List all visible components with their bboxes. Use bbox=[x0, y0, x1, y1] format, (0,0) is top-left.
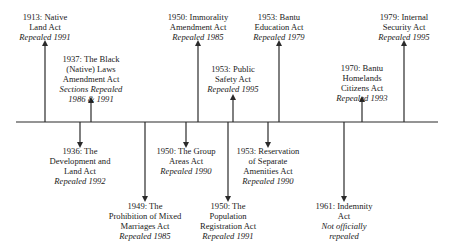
event-repeal-status: Repealed 1991 bbox=[19, 32, 70, 42]
event-repeal-status: Repealed 1991 bbox=[200, 231, 256, 241]
event-repeal-status: Repealed 1979 bbox=[253, 32, 304, 42]
event-label-prohibition-of-mixed-marriages-act: 1949: TheProhibition of MixedMarriages A… bbox=[109, 201, 182, 241]
event-title-line: Education Act bbox=[253, 22, 304, 32]
event-repeal-status: repealed bbox=[315, 231, 372, 241]
event-repeal-status: Repealed 1990 bbox=[156, 166, 215, 176]
event-title-line: Registration Act bbox=[200, 221, 256, 231]
event-title-line: 1937: The Black bbox=[60, 54, 123, 64]
event-repeal-status: 1986 & 1991 bbox=[60, 94, 123, 104]
event-label-black-native-laws-amendment-act: 1937: The Black(Native) LawsAmendment Ac… bbox=[60, 54, 123, 104]
event-label-bantu-homelands-citizens-act: 1970: BantuHomelandsCitizens ActRepealed… bbox=[336, 63, 387, 103]
event-title-line: 1953: Public bbox=[207, 64, 258, 74]
event-title-line: Amendment Act bbox=[168, 22, 228, 32]
event-title-line: of Separate bbox=[237, 156, 300, 166]
event-repeal-status: Repealed 1992 bbox=[50, 176, 111, 186]
event-title-line: (Native) Laws bbox=[60, 64, 123, 74]
event-label-population-registration-act: 1950: ThePopulationRegistration ActRepea… bbox=[200, 201, 256, 241]
event-label-public-safety-act: 1953: PublicSafety ActRepealed 1995 bbox=[207, 64, 258, 94]
event-label-native-land-act: 1913: NativeLand ActRepealed 1991 bbox=[19, 12, 70, 42]
event-title-line: Areas Act bbox=[156, 156, 215, 166]
event-repeal-status: Not officially bbox=[315, 221, 372, 231]
event-label-development-and-land-act: 1936: TheDevelopment andLand ActRepealed… bbox=[50, 146, 111, 186]
event-repeal-status: Sections Repealed bbox=[60, 84, 123, 94]
event-label-indemnity-act: 1961: IndemnityActNot officiallyrepealed bbox=[315, 201, 372, 241]
event-label-immorality-amendment-act: 1950: ImmoralityAmendment ActRepealed 19… bbox=[168, 12, 228, 42]
event-repeal-status: Repealed 1990 bbox=[237, 176, 300, 186]
event-label-internal-security-act: 1979: InternalSecurity ActRepealed 1995 bbox=[378, 12, 429, 42]
event-repeal-status: Repealed 1995 bbox=[207, 84, 258, 94]
event-title-line: Marriages Act bbox=[109, 221, 182, 231]
event-title-line: 1950: The bbox=[200, 201, 256, 211]
event-title-line: 1950: The Group bbox=[156, 146, 215, 156]
event-title-line: Act bbox=[315, 211, 372, 221]
event-repeal-status: Repealed 1993 bbox=[336, 93, 387, 103]
event-title-line: 1970: Bantu bbox=[336, 63, 387, 73]
event-title-line: Amenities Act bbox=[237, 166, 300, 176]
event-title-line: 1950: Immorality bbox=[168, 12, 228, 22]
event-label-bantu-education-act: 1953: BantuEducation ActRepealed 1979 bbox=[253, 12, 304, 42]
event-title-line: 1913: Native bbox=[19, 12, 70, 22]
event-title-line: 1979: Internal bbox=[378, 12, 429, 22]
event-repeal-status: Repealed 1985 bbox=[109, 231, 182, 241]
event-title-line: Development and bbox=[50, 156, 111, 166]
event-title-line: 1949: The bbox=[109, 201, 182, 211]
event-title-line: Security Act bbox=[378, 22, 429, 32]
event-title-line: Citizens Act bbox=[336, 83, 387, 93]
event-title-line: 1953: Bantu bbox=[253, 12, 304, 22]
event-title-line: Land Act bbox=[50, 166, 111, 176]
event-repeal-status: Repealed 1985 bbox=[168, 32, 228, 42]
event-title-line: Prohibition of Mixed bbox=[109, 211, 182, 221]
event-title-line: Land Act bbox=[19, 22, 70, 32]
event-title-line: Population bbox=[200, 211, 256, 221]
event-title-line: 1953: Reservation bbox=[237, 146, 300, 156]
event-title-line: 1936: The bbox=[50, 146, 111, 156]
event-label-reservation-of-separate-amenities-act: 1953: Reservationof SeparateAmenities Ac… bbox=[237, 146, 300, 186]
event-label-group-areas-act: 1950: The GroupAreas ActRepealed 1990 bbox=[156, 146, 215, 176]
event-title-line: Amendment Act bbox=[60, 74, 123, 84]
event-title-line: 1961: Indemnity bbox=[315, 201, 372, 211]
event-title-line: Safety Act bbox=[207, 74, 258, 84]
event-title-line: Homelands bbox=[336, 73, 387, 83]
event-repeal-status: Repealed 1995 bbox=[378, 32, 429, 42]
